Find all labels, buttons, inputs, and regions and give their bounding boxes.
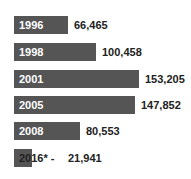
bar-value-label: 80,553 [86, 125, 120, 137]
bar-row-1998: 1998 100,458 [14, 43, 142, 61]
bar: 2008 [14, 122, 80, 140]
bar-year-label: 2001 [19, 73, 43, 85]
bar-row-2016: 2016* - 21,941 [14, 149, 102, 167]
bar: 2001 [14, 70, 139, 88]
bar-value-label: 100,458 [102, 46, 142, 58]
bar-row-1996: 1996 66,465 [14, 16, 108, 34]
bar-value-label: 21,941 [68, 152, 102, 164]
bar-row-2005: 2005 147,852 [14, 96, 181, 114]
bar-year-label: 2008 [19, 125, 43, 137]
bar-row-2001: 2001 153,205 [14, 70, 185, 88]
bar-year-label: 2005 [19, 99, 43, 111]
bar: 2005 [14, 96, 135, 114]
bar-row-2008: 2008 80,553 [14, 122, 120, 140]
bar-year-label: 1996 [19, 19, 43, 31]
bar-value-label: 66,465 [74, 19, 108, 31]
bar: 2016* - [14, 149, 32, 167]
bar: 1996 [14, 16, 68, 34]
bar-value-label: 153,205 [145, 73, 185, 85]
bar-value-label: 147,852 [141, 99, 181, 111]
bar-year-label: 2016* - [19, 152, 54, 164]
bar: 1998 [14, 43, 96, 61]
bar-year-label: 1998 [19, 46, 43, 58]
